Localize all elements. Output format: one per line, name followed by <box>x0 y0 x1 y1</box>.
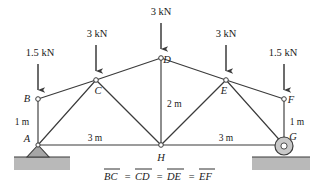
dim-right-span: 3 m <box>219 133 234 143</box>
load-label-F: 1.5 kN <box>269 47 298 58</box>
load-label-E: 3 kN <box>216 28 237 39</box>
caption-cd: CD <box>135 171 150 182</box>
dim-rise: 2 m <box>167 99 182 109</box>
ground-left <box>14 157 70 170</box>
caption-group: BC = CD = DE = EF <box>104 169 215 182</box>
joint-marker-E <box>224 78 229 83</box>
joint-marker-B <box>36 97 41 102</box>
joint-marker-A <box>36 143 40 147</box>
joint-label-D: D <box>162 54 171 65</box>
ground-right <box>252 157 310 170</box>
truss-svg-canvas: 1.5 kN 3 kN 3 kN 3 kN 1.5 kN A B C D E F… <box>0 0 323 187</box>
caption-ef: EF <box>198 171 212 182</box>
caption-eq-1: = <box>124 171 131 182</box>
dim-right-height: 1 m <box>290 117 305 127</box>
caption-bc: BC <box>104 171 118 182</box>
truss-diagram-figure: 1.5 kN 3 kN 3 kN 3 kN 1.5 kN A B C D E F… <box>0 0 323 187</box>
joint-label-F: F <box>287 94 295 105</box>
dimension-labels-group: 1 m 1 m 3 m 3 m 2 m <box>15 99 305 143</box>
joint-label-B: B <box>24 93 31 104</box>
caption-eq-2: = <box>156 171 163 182</box>
joint-label-G: G <box>289 131 297 142</box>
load-label-D: 3 kN <box>151 6 172 17</box>
joint-label-A: A <box>23 133 31 144</box>
member-CH <box>96 80 161 145</box>
truss-members-group <box>38 58 284 145</box>
load-label-C: 3 kN <box>87 28 108 39</box>
joint-marker-F <box>282 97 287 102</box>
caption-de: DE <box>166 171 182 182</box>
member-CD <box>96 58 161 80</box>
joint-label-H: H <box>156 152 166 163</box>
caption-eq-3: = <box>188 171 195 182</box>
joint-marker-C <box>94 78 99 83</box>
dim-left-span: 3 m <box>88 133 103 143</box>
load-label-B: 1.5 kN <box>26 47 55 58</box>
joint-label-C: C <box>94 85 102 96</box>
dim-left-height: 1 m <box>15 117 30 127</box>
member-HE <box>161 80 226 145</box>
joint-label-E: E <box>220 85 228 96</box>
joint-marker-H <box>159 143 164 148</box>
